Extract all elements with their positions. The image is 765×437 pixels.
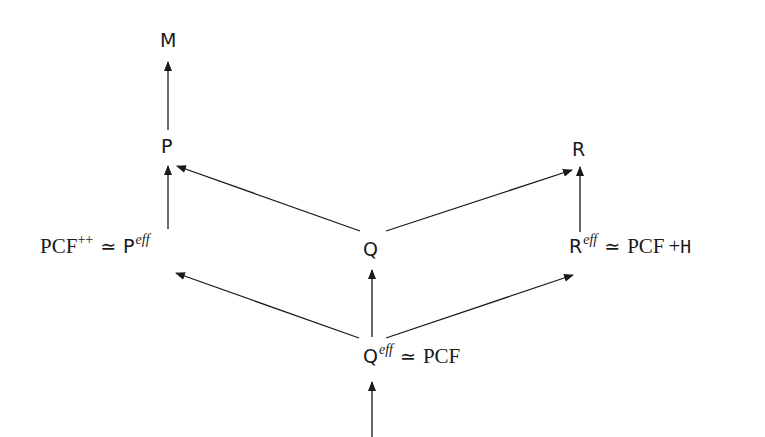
peff-rel: ≃ [100, 235, 116, 257]
qeff-sup: eff [379, 342, 393, 357]
node-r-label: R [572, 138, 585, 160]
qeff-base: Q [363, 345, 378, 367]
node-reff: Reff≃PCF+H [569, 236, 691, 257]
node-q: Q [363, 240, 378, 259]
arrow-q-to-p [177, 166, 360, 231]
diagram-canvas: M P R Q PCF++≃Peff Reff≃PCF+H Qeff≃PCF [0, 0, 765, 437]
arrow-qeff-to-reff [386, 275, 573, 338]
node-r: R [572, 140, 585, 159]
peff-lhs-sup: ++ [77, 232, 93, 247]
edges-layer [0, 0, 765, 437]
node-p: P [161, 137, 172, 156]
node-m: M [160, 31, 176, 50]
reff-plus: + [669, 234, 681, 258]
reff-sup: eff [583, 232, 597, 247]
node-m-label: M [160, 29, 176, 51]
node-p-label: P [161, 135, 172, 157]
reff-rhs-extra: H [680, 236, 691, 257]
peff-base: P [123, 235, 134, 257]
node-qeff: Qeff≃PCF [363, 346, 460, 367]
node-peff: PCF++≃Peff [40, 236, 150, 257]
reff-rel: ≃ [604, 235, 620, 257]
peff-sup: eff [136, 232, 150, 247]
arrow-qeff-to-peff [176, 273, 359, 338]
reff-rhs: PCF [627, 234, 664, 258]
node-q-label: Q [363, 238, 378, 260]
arrow-q-to-r [386, 170, 572, 231]
reff-base: R [569, 235, 582, 257]
qeff-rel: ≃ [400, 345, 416, 367]
qeff-rhs: PCF [423, 344, 460, 368]
peff-lhs: PCF [40, 234, 77, 258]
